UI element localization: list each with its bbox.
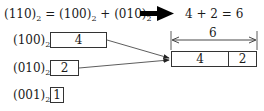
diagram-lines <box>0 0 264 111</box>
big-arrow-icon <box>140 6 174 21</box>
connector-arrow-4 <box>107 40 169 58</box>
connector-arrow-2 <box>79 60 169 68</box>
double-arrow-icon <box>172 37 256 43</box>
